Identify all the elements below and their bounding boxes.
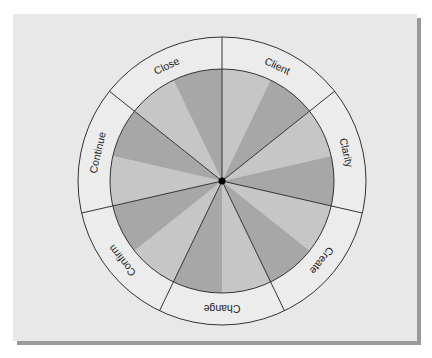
wheel-diagram: ClientClarityCreateChangeConfirmContinue… xyxy=(0,0,432,358)
segment-label-change: Change xyxy=(203,303,240,315)
center-hub xyxy=(219,178,226,185)
